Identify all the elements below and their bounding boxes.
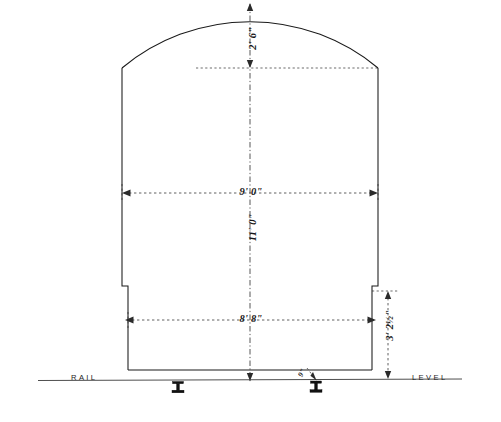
side-height-bottom-arrow — [385, 371, 391, 379]
tunnel-left-wall-path — [122, 68, 128, 370]
right-rail-symbol — [310, 381, 322, 392]
tunnel-cross-section-drawing: 2' 6" 9' 0" 11' 0" 8' 8" 3' 2½" 9" RAIL … — [0, 0, 501, 422]
centerline-top-arrow — [247, 3, 253, 11]
side-height-dimension-label: 3' 2½" — [385, 301, 396, 349]
upper-width-right-arrow — [370, 190, 379, 197]
side-height-top-arrow — [385, 291, 391, 299]
arch-rise-dimension-label: 2' 6" — [248, 17, 259, 59]
arch-rise-lower-arrow — [247, 60, 253, 68]
upper-width-left-arrow — [122, 190, 131, 197]
rail-symbols-group — [172, 381, 322, 393]
arch-rise-dimension-group — [196, 60, 378, 68]
lower-width-left-arrow — [125, 317, 134, 324]
level-text-label: LEVEL — [412, 374, 448, 382]
left-rail-symbol — [172, 382, 184, 393]
rail-text-label: RAIL — [71, 374, 97, 382]
tunnel-right-wall-path — [372, 68, 378, 370]
upper-width-dimension-label: 9' 0" — [230, 187, 272, 198]
total-height-dimension-label: 11' 0" — [248, 203, 259, 251]
lower-width-dimension-label: 8' 8" — [230, 314, 272, 325]
